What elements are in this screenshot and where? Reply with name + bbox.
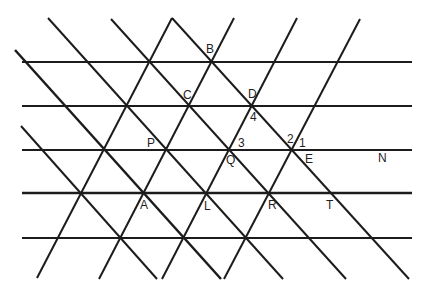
label-L: L (204, 199, 211, 213)
label-P: P (147, 136, 155, 150)
diagram-canvas: BCD4P3Q21ENALRT (0, 0, 428, 297)
label-T: T (326, 198, 334, 212)
label-R: R (268, 198, 277, 212)
label-4: 4 (250, 110, 257, 124)
label-N: N (378, 151, 387, 165)
geometry-diagram: BCD4P3Q21ENALRT (0, 0, 428, 297)
label-A: A (140, 198, 148, 212)
label-Q: Q (226, 153, 235, 167)
label-1: 1 (299, 136, 306, 150)
label-C: C (183, 88, 192, 102)
label-E: E (305, 152, 313, 166)
label-2: 2 (287, 132, 294, 146)
label-D: D (248, 87, 257, 101)
label-3: 3 (238, 136, 245, 150)
label-B: B (206, 42, 214, 56)
